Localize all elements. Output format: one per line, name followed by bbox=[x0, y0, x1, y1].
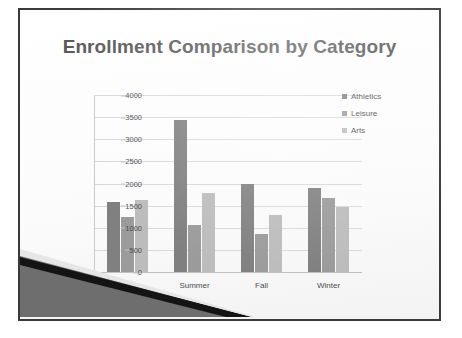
legend-item-leisure[interactable]: Leisure bbox=[342, 109, 402, 118]
bar-arts-fall[interactable] bbox=[269, 215, 282, 272]
legend-label: Arts bbox=[351, 126, 365, 135]
bar-leisure-fall[interactable] bbox=[255, 234, 268, 272]
bar-athletics-fall[interactable] bbox=[241, 184, 254, 272]
bar-arts-winter[interactable] bbox=[336, 207, 349, 272]
legend-item-arts[interactable]: Arts bbox=[342, 126, 402, 135]
category-label-fall: Fall bbox=[228, 281, 295, 290]
legend-swatch-icon bbox=[342, 111, 347, 116]
y-tick-mark bbox=[121, 95, 125, 96]
y-tick-mark bbox=[121, 139, 125, 140]
legend-swatch-icon bbox=[342, 128, 347, 133]
legend-label: Leisure bbox=[351, 109, 377, 118]
y-tick-label: 1000 bbox=[125, 223, 142, 232]
y-tick-label: 2500 bbox=[125, 157, 142, 166]
y-tick-label: 2000 bbox=[125, 179, 142, 188]
slide-photo: Enrollment Comparison by Category Spring… bbox=[0, 0, 462, 338]
y-tick-label: 1500 bbox=[125, 201, 142, 210]
y-axis-line bbox=[94, 95, 95, 272]
category-label-spring: Spring bbox=[94, 281, 161, 290]
bar-leisure-summer[interactable] bbox=[188, 225, 201, 272]
y-tick-mark bbox=[121, 184, 125, 185]
bar-arts-summer[interactable] bbox=[202, 193, 215, 272]
y-tick-label: 0 bbox=[138, 268, 142, 277]
bar-athletics-spring[interactable] bbox=[107, 202, 120, 272]
category-label-winter: Winter bbox=[295, 281, 362, 290]
y-tick-mark bbox=[121, 206, 125, 207]
legend-item-athletics[interactable]: Athletics bbox=[342, 92, 402, 101]
chart-title: Enrollment Comparison by Category bbox=[20, 36, 439, 58]
y-tick-mark bbox=[134, 272, 138, 273]
y-tick-label: 3000 bbox=[125, 135, 142, 144]
category-label-summer: Summer bbox=[161, 281, 228, 290]
y-tick-label: 3500 bbox=[125, 113, 142, 122]
y-tick-mark bbox=[121, 228, 125, 229]
legend-swatch-icon bbox=[342, 94, 347, 99]
bar-athletics-summer[interactable] bbox=[174, 120, 187, 272]
y-tick-mark bbox=[121, 117, 125, 118]
y-tick-label: 4000 bbox=[125, 91, 142, 100]
chart-legend: AthleticsLeisureArts bbox=[342, 92, 402, 143]
bar-leisure-winter[interactable] bbox=[322, 198, 335, 272]
y-tick-mark bbox=[121, 161, 125, 162]
bar-arts-spring[interactable] bbox=[135, 200, 148, 272]
bar-group bbox=[161, 95, 228, 272]
bar-athletics-winter[interactable] bbox=[308, 188, 321, 272]
legend-label: Athletics bbox=[351, 92, 381, 101]
bar-group bbox=[228, 95, 295, 272]
slide-canvas: Enrollment Comparison by Category Spring… bbox=[20, 10, 439, 319]
y-tick-mark bbox=[125, 250, 129, 251]
slide-frame: Enrollment Comparison by Category Spring… bbox=[18, 8, 441, 321]
y-tick-label: 500 bbox=[129, 245, 142, 254]
